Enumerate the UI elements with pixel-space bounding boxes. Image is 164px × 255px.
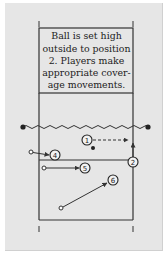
- caption-line-4: appropriate cover-: [42, 67, 130, 79]
- player-6-marker: 6: [108, 175, 118, 185]
- player-2-marker: 2: [128, 157, 138, 167]
- player-5-marker: 5: [80, 163, 90, 173]
- ball-icon: [91, 146, 95, 150]
- player-1-label: 1: [85, 137, 89, 145]
- player-6-origin-marker: [59, 206, 63, 210]
- player-4-movement-arrow: [33, 153, 49, 156]
- left-net-post: [20, 124, 25, 129]
- player-6-movement-arrow: [63, 183, 107, 207]
- player-5-label: 5: [83, 165, 87, 173]
- player-2-label: 2: [131, 159, 135, 167]
- net-line: [23, 126, 149, 129]
- player-1-marker: 1: [82, 135, 92, 145]
- player-5-origin-marker: [42, 166, 46, 170]
- player-4-origin-marker: [29, 150, 33, 154]
- diagram-caption: Ball is set high outside to position 2. …: [40, 30, 133, 92]
- caption-line-2: outside to position: [42, 43, 130, 55]
- caption-line-5: age movements.: [42, 79, 130, 91]
- player-6-label: 6: [111, 177, 116, 185]
- caption-line-3: 2. Players make: [42, 55, 130, 67]
- player-4-marker: 4: [50, 150, 60, 160]
- player-4-label: 4: [53, 152, 58, 160]
- caption-line-1: Ball is set high: [42, 30, 130, 42]
- right-net-post: [145, 124, 150, 129]
